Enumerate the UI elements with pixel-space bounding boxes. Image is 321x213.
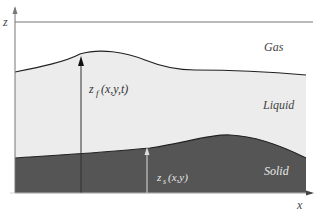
- z-axis-label: z: [2, 15, 8, 29]
- x-axis-arrow-icon: [306, 191, 314, 196]
- three-phase-diagram: z x Gas Liquid Solid z f (x,y,t) z s (x,…: [0, 0, 321, 213]
- svg-text:(x,y): (x,y): [168, 171, 188, 184]
- x-axis-label: x: [296, 198, 303, 212]
- gas-label: Gas: [264, 40, 284, 54]
- svg-text:z: z: [88, 82, 94, 96]
- svg-text:s: s: [163, 177, 166, 186]
- z-axis-arrow-icon: [13, 6, 18, 14]
- liquid-label: Liquid: [262, 98, 295, 112]
- svg-text:z: z: [156, 171, 162, 183]
- svg-text:(x,y,t): (x,y,t): [101, 82, 128, 96]
- solid-label: Solid: [264, 164, 290, 178]
